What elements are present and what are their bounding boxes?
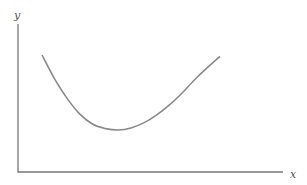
series-curve (42, 55, 220, 130)
x-axis-label: x (290, 168, 297, 181)
chart: y x (0, 0, 307, 185)
y-axis-label: y (13, 9, 21, 22)
